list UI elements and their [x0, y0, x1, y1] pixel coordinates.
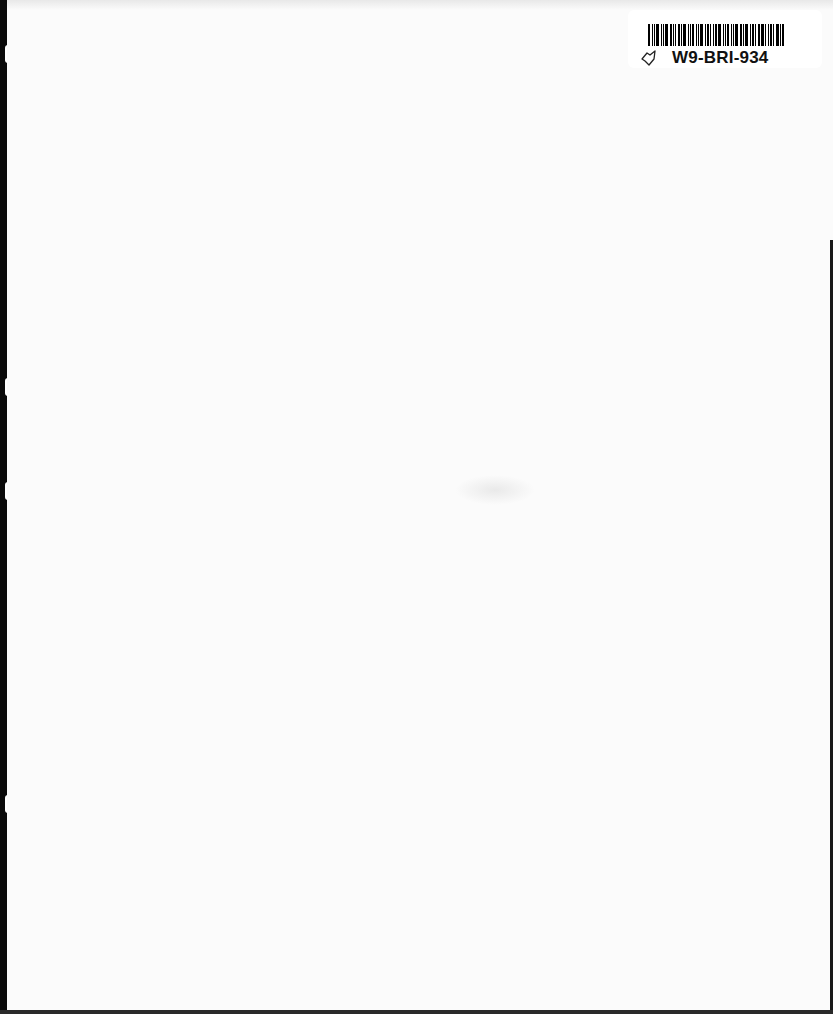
bottom-page-edge	[0, 1010, 833, 1014]
barcode-bar	[713, 24, 714, 46]
barcode	[648, 24, 786, 46]
barcode-bar	[700, 24, 703, 46]
barcode-bar	[663, 24, 664, 46]
left-edge-tear-mark	[5, 45, 12, 63]
barcode-bar	[652, 24, 653, 46]
barcode-bar	[758, 24, 760, 46]
scanned-page: W9-BRI-934	[0, 0, 833, 1014]
barcode-bar	[661, 24, 662, 46]
barcode-bar	[782, 24, 784, 46]
barcode-bar	[670, 24, 672, 46]
barcode-bar	[752, 24, 754, 46]
barcode-bar	[776, 24, 779, 46]
left-edge-tear-mark	[5, 795, 12, 813]
barcode-bar	[740, 24, 742, 46]
barcode-bar	[745, 24, 748, 46]
barcode-bar	[675, 24, 676, 46]
left-edge-tear-mark	[5, 482, 12, 500]
paper-smudge	[455, 475, 535, 505]
barcode-bar	[678, 24, 680, 46]
barcode-bar	[690, 24, 691, 46]
barcode-bar	[648, 24, 650, 46]
barcode-bar	[770, 24, 772, 46]
label-row: W9-BRI-934	[640, 48, 768, 68]
barcode-bar	[688, 24, 689, 46]
barcode-code-text: W9-BRI-934	[672, 48, 768, 68]
left-edge-tear-mark	[5, 378, 12, 396]
barcode-bar	[750, 24, 751, 46]
barcode-bar	[718, 24, 721, 46]
book-outline-icon	[640, 50, 658, 66]
barcode-bar	[761, 24, 764, 46]
barcode-bar	[731, 24, 732, 46]
left-page-edge	[0, 0, 7, 1014]
barcode-bar	[710, 24, 711, 46]
barcode-bar	[780, 24, 781, 46]
barcode-bar	[696, 24, 697, 46]
barcode-bar	[725, 24, 726, 46]
barcode-bar	[654, 24, 655, 46]
barcode-bar	[715, 24, 717, 46]
barcode-bar	[765, 24, 766, 46]
barcode-bar	[743, 24, 744, 46]
top-scan-shadow	[0, 0, 833, 10]
barcode-bar	[656, 24, 659, 46]
barcode-bar	[707, 24, 709, 46]
barcode-bar	[705, 24, 706, 46]
barcode-bar	[733, 24, 734, 46]
barcode-bar	[681, 24, 682, 46]
barcode-bar	[673, 24, 674, 46]
barcode-bar	[735, 24, 738, 46]
barcode-bar	[683, 24, 686, 46]
barcode-bar	[755, 24, 756, 46]
barcode-bar	[698, 24, 699, 46]
barcode-bar	[727, 24, 729, 46]
barcode-bar	[692, 24, 694, 46]
barcode-bar	[773, 24, 774, 46]
barcode-bar	[723, 24, 724, 46]
barcode-label: W9-BRI-934	[628, 10, 822, 68]
barcode-bar	[665, 24, 668, 46]
barcode-bar	[768, 24, 769, 46]
